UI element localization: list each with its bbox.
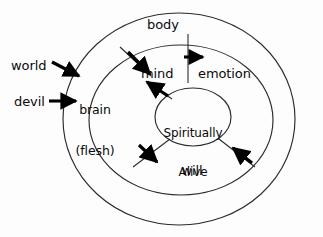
label-brain-line1: brain — [70, 103, 120, 117]
diagram-canvas: world devil brain (flesh) body mind emot… — [0, 0, 323, 237]
label-devil: devil — [14, 95, 45, 109]
label-world: world — [11, 59, 46, 73]
label-emotion: emotion — [198, 67, 251, 81]
label-will: will — [181, 164, 202, 178]
label-center-line1: Spiritually — [147, 127, 239, 140]
center-to-mind-arrow — [147, 82, 168, 96]
label-body: body — [147, 18, 179, 32]
world-arrow — [52, 62, 79, 76]
label-brain-line2: (flesh) — [70, 144, 120, 158]
label-mind: mind — [141, 67, 173, 81]
label-brain-flesh: brain (flesh) — [70, 76, 120, 184]
label-spiritually-alive: Spiritually Alive — [147, 101, 239, 205]
